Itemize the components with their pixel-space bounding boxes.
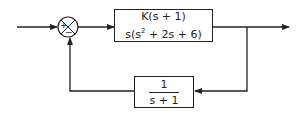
den-prefix: s(s <box>125 28 141 41</box>
fraction-bar <box>149 92 179 93</box>
forward-denominator: s(s2 + 2s + 6) <box>122 25 205 41</box>
feedback-numerator: 1 <box>158 78 171 91</box>
feedback-denominator: s + 1 <box>147 94 182 107</box>
minus-sign: − <box>65 28 73 37</box>
den-suffix: + 2s + 6) <box>145 28 201 41</box>
forward-numerator: K(s + 1) <box>138 10 189 23</box>
feedback-return-arrow <box>70 38 134 91</box>
forward-transfer-function-block: K(s + 1) s(s2 + 2s + 6) <box>114 9 213 42</box>
feedback-transfer-function-block: 1 s + 1 <box>134 76 194 108</box>
